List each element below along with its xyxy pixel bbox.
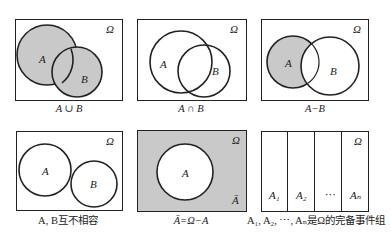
label-a: A	[284, 57, 292, 69]
omega-label: Ω	[353, 23, 361, 35]
omega-label: Ω	[230, 23, 238, 35]
omega-label: Ω	[354, 135, 362, 147]
venn-diagram-figure: A B Ω A ∪ B A B Ω A ∩ B A B Ω A−B A B Ω …	[0, 0, 391, 234]
label-a-complement: Ā	[231, 194, 239, 206]
caption-difference: A−B	[304, 103, 325, 114]
label-a2: A₂	[295, 189, 307, 201]
label-dots: ⋯	[324, 188, 335, 200]
label-a: A	[159, 58, 167, 70]
label-a1: A₁	[268, 189, 280, 201]
label-a: A	[181, 167, 189, 179]
omega-label: Ω	[106, 23, 114, 35]
label-b: B	[90, 178, 97, 190]
label-a: A	[41, 165, 49, 177]
set-b-circle	[52, 47, 102, 97]
panel-mutually-exclusive: A B Ω A, B互不相容	[17, 132, 123, 227]
caption-intersection: A ∩ B	[177, 103, 204, 114]
caption-complement: Ā=Ω−A	[173, 215, 209, 226]
omega-label: Ω	[106, 135, 114, 147]
omega-label: Ω	[232, 134, 240, 146]
panel-intersection: A B Ω A ∩ B	[138, 20, 247, 115]
caption-complete-event-group: A₁, A₂, ⋯, Aₙ是Ω的完备事件组	[247, 214, 386, 226]
label-b: B	[212, 65, 219, 77]
label-a: A	[38, 53, 46, 65]
panel-difference: A B Ω A−B	[262, 20, 369, 115]
label-b: B	[81, 73, 88, 85]
caption-mutually-exclusive: A, B互不相容	[38, 214, 99, 226]
label-an: Aₙ	[349, 189, 361, 201]
label-b: B	[330, 65, 337, 77]
panel-union: A B Ω A ∪ B	[16, 20, 123, 115]
panel-complete-event-group: A₁ A₂ ⋯ Aₙ Ω A₁, A₂, ⋯, Aₙ是Ω的完备事件组	[247, 132, 386, 227]
panel-complement: A Ā Ω Ā=Ω−A	[138, 131, 247, 227]
caption-union: A ∪ B	[55, 103, 83, 114]
